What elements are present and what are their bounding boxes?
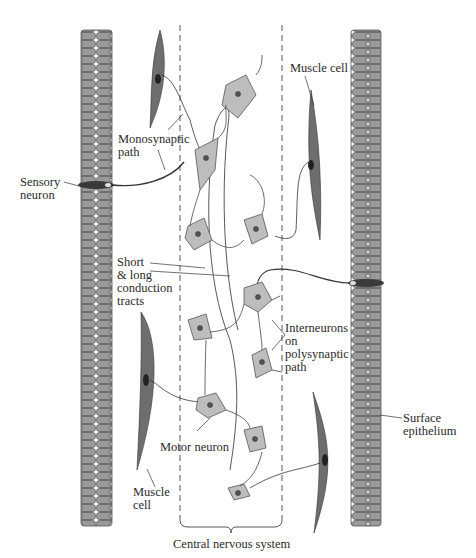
label-muscle-cell-top: Muscle cell [290, 62, 348, 75]
label-motor-neuron: Motor neuron [160, 441, 229, 454]
left-surface-epithelium [81, 30, 112, 526]
muscle-cell-bottom-right [250, 392, 328, 533]
right-surface-epithelium [351, 30, 381, 526]
nervous-system-diagram: Monosynaptic path Sensory neuron Short &… [0, 0, 476, 558]
neurons [185, 75, 272, 500]
label-muscle-cell-bottom: Muscle cell [133, 486, 170, 512]
label-surface-epithelium: Surface epithelium [403, 412, 456, 438]
label-central-nervous-system: Central nervous system [173, 538, 290, 551]
label-monosynaptic-path: Monosynaptic path [118, 133, 190, 159]
label-conduction-tracts: Short & long conduction tracts [117, 256, 173, 308]
diagram-graphics [0, 0, 476, 558]
label-sensory-neuron: Sensory neuron [20, 176, 60, 202]
label-interneurons: Interneurons on polysynaptic path [285, 322, 349, 374]
